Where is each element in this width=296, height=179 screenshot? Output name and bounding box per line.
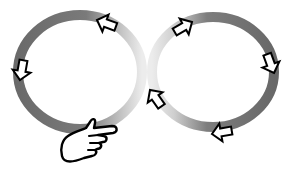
diagram-canvas xyxy=(0,0,296,179)
right-loop-ring xyxy=(152,17,274,127)
left-loop-ring xyxy=(18,15,142,129)
infinity-loop-diagram xyxy=(0,0,296,179)
